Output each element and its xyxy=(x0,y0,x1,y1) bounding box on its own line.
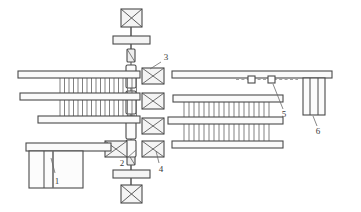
right-hub-box-1 xyxy=(142,68,164,84)
diagram-canvas: 1 2 3 4 5 6 xyxy=(0,0,361,212)
callout-label-1: 1 xyxy=(55,176,60,186)
callout-label-3: 3 xyxy=(164,52,169,62)
right-bank-bar-4 xyxy=(172,141,283,148)
assembly-schematic: 1 2 3 4 5 6 xyxy=(0,0,361,212)
item6-column-body xyxy=(303,78,325,115)
callout-label-6: 6 xyxy=(316,126,321,136)
callout-label-2: 2 xyxy=(120,158,125,168)
right-hub-box-4 xyxy=(142,141,164,157)
item5-marker-right xyxy=(268,76,275,83)
callout-label-4: 4 xyxy=(159,164,164,174)
left-bank-bar-3 xyxy=(38,116,140,123)
right-bank-bar-2 xyxy=(173,95,283,102)
right-bank-bar-3 xyxy=(168,117,283,124)
callout-label-5: 5 xyxy=(282,109,287,119)
item1-top-bar xyxy=(26,143,111,151)
right-hub-box-2 xyxy=(142,93,164,109)
top-coupling-bar xyxy=(113,36,150,44)
right-hub-box-3 xyxy=(142,118,164,134)
item5-marker-left xyxy=(248,76,255,83)
item6-column-group xyxy=(303,78,325,115)
left-bank-bar-2 xyxy=(20,93,140,100)
left-bank-bar-1 xyxy=(18,71,140,78)
bottom-coupling-bar xyxy=(113,170,150,178)
